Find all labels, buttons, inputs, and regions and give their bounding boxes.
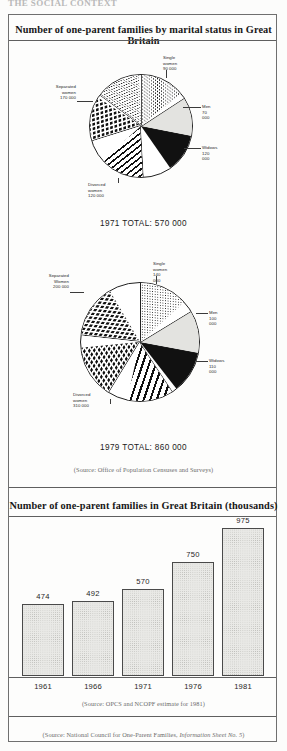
divider-top (9, 40, 276, 41)
pie-1971-leader-divorced (118, 178, 119, 183)
bar-year-1976: 1976 (172, 682, 214, 691)
pie-1971-slice-separated-women (90, 75, 192, 177)
figure-page: THE SOCIAL CONTEXT Number of one-parent … (0, 0, 287, 751)
bar-year-1981: 1981 (222, 682, 264, 691)
bar-chart-one-parent-families: 474 492 570 750 975 (22, 524, 264, 676)
pie-1979-leader-divorced (110, 399, 111, 404)
panel2-title: Number of one-parent families in Great B… (0, 500, 287, 511)
figure-source: (Source: National Council for One-Parent… (0, 731, 287, 738)
pie-1971-total: 1971 TOTAL: 570 000 (0, 219, 287, 228)
pie-1971-label-divorced-women: Divorced women120 000 (88, 182, 105, 199)
bar-value-1971: 570 (122, 577, 164, 586)
pie-1971-leader-men (183, 107, 201, 108)
bar-value-1976: 750 (172, 550, 214, 559)
pie-1979-leader-separated (70, 292, 84, 293)
pie-1971-label-separated-women: Separated women170 000 (24, 84, 76, 101)
divider-middle (9, 487, 276, 488)
pie-1971-leader-separated (77, 101, 93, 102)
bar-year-1971: 1971 (122, 682, 164, 691)
running-head: THE SOCIAL CONTEXT (0, 0, 287, 13)
pie-1979-leader-single (156, 276, 157, 284)
pie-1979-label-separated-women: Separated Women200 000 (20, 273, 69, 290)
bar-column-1961: 474 (22, 604, 64, 676)
bar-rect-1966 (72, 601, 114, 676)
bar-chart-axis (9, 677, 276, 678)
pie-1979-disc (80, 282, 200, 402)
pie-1979-leader-widows (196, 361, 208, 362)
figure-source-italic: Information Sheet No. 5 (178, 731, 243, 738)
bar-value-1961: 474 (22, 592, 64, 601)
bar-year-1966: 1966 (72, 682, 114, 691)
figure-source-suffix: ) (242, 731, 244, 738)
bar-value-1966: 492 (72, 589, 114, 598)
pie-1971-label-widows: Widows120 000 (202, 145, 217, 162)
pie-1971-leader-single (166, 70, 167, 78)
pie-1979-label-widows: Widows110 000 (209, 358, 224, 375)
panel1-source: (Source: Office of Population Censuses a… (0, 466, 287, 473)
panel1-title: Number of one-parent families by marital… (0, 24, 287, 46)
pie-1971-leader-widows (184, 148, 201, 149)
pie-1979-label-men: Men100 000 (209, 310, 218, 327)
pie-1971-disc (89, 74, 193, 178)
panel2-source: (Source: OPCS and NCOPF estimate for 198… (0, 700, 287, 707)
bar-column-1971: 570 (122, 589, 164, 676)
bar-year-1961: 1961 (22, 682, 64, 691)
pie-1979-label-divorced-women: Divorced women310 000 (73, 392, 90, 409)
running-head-text: THE SOCIAL CONTEXT (8, 0, 117, 8)
bar-column-1976: 750 (172, 562, 214, 676)
bar-rect-1971 (122, 589, 164, 676)
pie-1979-slice-separated-women (81, 283, 199, 401)
divider-bottom (9, 716, 276, 717)
bar-value-1981: 975 (222, 516, 264, 525)
bar-rect-1961 (22, 604, 64, 676)
pie-1979-leader-men (196, 313, 208, 314)
bar-column-1981: 975 (222, 528, 264, 676)
figure-source-prefix: (Source: National Council for One-Parent… (43, 731, 178, 738)
bar-rect-1976 (172, 562, 214, 676)
bar-rect-1981 (222, 528, 264, 676)
pie-1971-label-men: Men70 000 (202, 104, 211, 121)
bar-column-1966: 492 (72, 601, 114, 676)
pie-1979-total: 1979 TOTAL: 860 000 (0, 443, 287, 452)
